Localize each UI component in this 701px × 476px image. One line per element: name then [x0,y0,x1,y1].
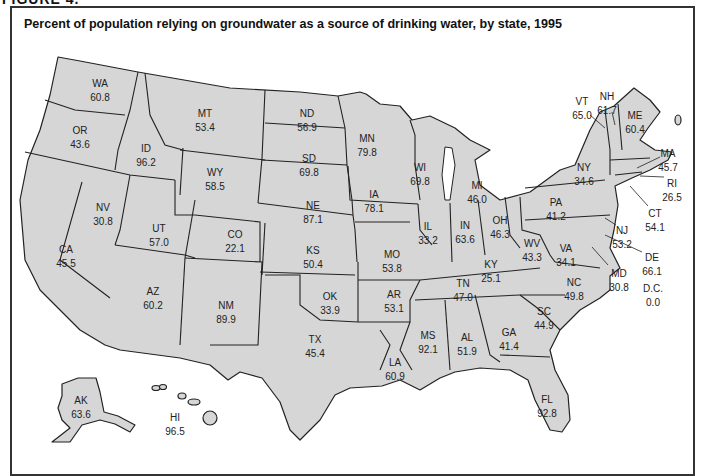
state-label-ks: KS50.4 [293,244,333,272]
state-value: 53.8 [372,262,412,276]
state-label-nd: ND56.9 [287,107,327,135]
state-abbr: ID [126,142,166,156]
state-label-sc: SC44.9 [524,305,564,333]
state-value: 87.1 [293,213,333,227]
state-value: 60.9 [375,370,415,384]
state-value: 53.1 [374,302,414,316]
state-abbr: NH [587,90,627,104]
state-label-la: LA60.9 [375,356,415,384]
state-abbr: CA [46,243,86,257]
state-label-id: ID96.2 [126,142,166,170]
state-abbr: CO [215,228,255,242]
state-abbr: MN [347,132,387,146]
state-value: 53.4 [185,121,225,135]
state-value: 47.0 [443,291,483,305]
state-value: 46.0 [457,193,497,207]
state-value: 34.6 [564,175,604,189]
state-label-al: AL51.9 [447,331,487,359]
state-abbr: PA [536,196,576,210]
state-value: 33.2 [408,234,448,248]
state-value: 60.8 [80,91,120,105]
state-value: 45.4 [295,347,335,361]
state-abbr: TX [295,333,335,347]
state-label-nc: NC49.8 [554,276,594,304]
state-label-dc: D.C.0.0 [633,282,673,310]
state-value: 63.6 [61,408,101,422]
state-value: 45.5 [46,257,86,271]
state-value: 63.6 [445,233,485,247]
state-abbr: HI [155,411,195,425]
state-abbr: KS [293,244,333,258]
state-value: 34.1 [546,256,586,270]
state-label-mn: MN79.8 [347,132,387,160]
state-value: 0.0 [633,296,673,310]
state-abbr: MI [457,179,497,193]
state-value: 53.2 [602,238,642,252]
state-label-ma: MA45.7 [648,147,688,175]
state-label-tn: TN47.0 [443,277,483,305]
state-value: 57.0 [139,236,179,250]
state-value: 22.1 [215,242,255,256]
state-label-nj: NJ53.2 [602,224,642,252]
state-abbr: SD [289,152,329,166]
state-abbr: AR [374,288,414,302]
state-value: 44.9 [524,319,564,333]
state-abbr: WI [400,161,440,175]
state-abbr: NM [206,299,246,313]
state-abbr: WA [80,77,120,91]
state-value: 49.8 [554,290,594,304]
state-value: 96.5 [155,425,195,439]
state-abbr: NY [564,161,604,175]
state-label-co: CO22.1 [215,228,255,256]
state-label-il: IL33.2 [408,220,448,248]
state-abbr: VA [546,242,586,256]
state-value: 58.5 [195,180,235,194]
state-abbr: NV [83,201,123,215]
state-label-tx: TX45.4 [295,333,335,361]
state-label-ak: AK63.6 [61,394,101,422]
state-value: 41.2 [536,210,576,224]
state-label-nm: NM89.9 [206,299,246,327]
state-label-ny: NY34.6 [564,161,604,189]
state-value: 50.4 [293,258,333,272]
state-label-ok: OK33.9 [310,290,350,318]
state-abbr: AK [61,394,101,408]
state-label-ar: AR53.1 [374,288,414,316]
state-abbr: RI [652,177,692,191]
state-abbr: UT [139,222,179,236]
state-abbr: NC [554,276,594,290]
state-label-va: VA34.1 [546,242,586,270]
state-value: 45.7 [648,161,688,175]
state-abbr: GA [489,326,529,340]
state-label-ga: GA41.4 [489,326,529,354]
state-abbr: MO [372,248,412,262]
state-label-ri: RI26.5 [652,177,692,205]
state-abbr: MD [599,267,639,281]
state-label-fl: FL92.8 [527,393,567,421]
state-label-sd: SD69.8 [289,152,329,180]
state-label-ne: NE87.1 [293,199,333,227]
state-abbr: MA [648,147,688,161]
state-label-az: AZ60.2 [133,285,173,313]
state-value: 56.9 [287,121,327,135]
state-label-pa: PA41.2 [536,196,576,224]
state-value: 51.9 [447,345,487,359]
state-abbr: LA [375,356,415,370]
state-label-ia: IA78.1 [354,188,394,216]
state-value: 92.1 [408,343,448,357]
state-value: 69.8 [400,175,440,189]
state-abbr: FL [527,393,567,407]
state-label-wi: WI69.8 [400,161,440,189]
state-label-hi: HI96.5 [155,411,195,439]
state-abbr: OR [60,124,100,138]
state-label-wa: WA60.8 [80,77,120,105]
state-abbr: KY [471,258,511,272]
state-abbr: OH [480,214,520,228]
state-abbr: IL [408,220,448,234]
state-label-mt: MT53.4 [185,107,225,135]
state-value: 69.8 [289,166,329,180]
state-value: 92.8 [527,407,567,421]
state-abbr: TN [443,277,483,291]
state-label-nv: NV30.8 [83,201,123,229]
state-value: 79.8 [347,146,387,160]
